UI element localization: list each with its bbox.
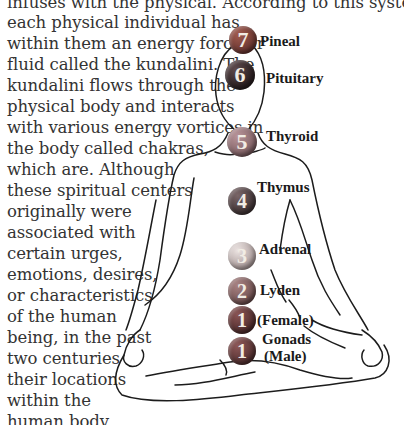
left-hand [124, 330, 144, 366]
chakra-label-adrenal: Adrenal [259, 242, 311, 257]
chakra-label-thymus: Thymus [257, 180, 310, 195]
chakra-7-circle: 7 [229, 26, 257, 54]
chakra-label-male: (Male) [264, 349, 306, 364]
chakra-6-circle: 6 [225, 60, 255, 90]
shoulder-left-outline [140, 133, 228, 330]
chakra-label-female: (Female) [257, 313, 314, 328]
chakra-4-circle: 4 [228, 187, 256, 215]
chakra-label-pineal: Pineal [260, 34, 300, 49]
meditating-figure-illustration [0, 0, 404, 425]
chakra-label-lyden: Lyden [260, 283, 300, 298]
chakra-1-female-circle: 1 [228, 306, 256, 334]
chakra-label-gonads: Gonads [262, 332, 311, 347]
chakra-label-pituitary: Pituitary [266, 71, 324, 86]
chakra-2-circle: 2 [228, 277, 256, 305]
shoulder-right-outline [258, 133, 368, 330]
chakra-1-male-circle: 1 [228, 337, 256, 365]
chakra-5-circle: 5 [227, 127, 257, 157]
chakra-3-circle: 3 [228, 242, 256, 270]
right-hand [362, 330, 382, 366]
chakra-label-thyroid: Thyroid [266, 129, 318, 144]
